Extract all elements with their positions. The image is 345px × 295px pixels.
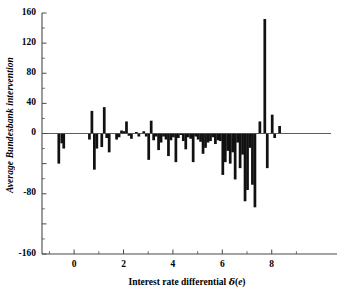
bar	[147, 134, 150, 160]
bar	[165, 134, 168, 140]
bars-group	[57, 19, 281, 207]
bar	[157, 134, 160, 151]
bar	[278, 126, 281, 134]
bar	[194, 134, 197, 137]
y-axis-tick-label: 80	[6, 67, 36, 77]
bar	[204, 134, 207, 148]
bar	[187, 134, 190, 138]
x-axis-tick-label: 8	[262, 259, 282, 269]
bar	[263, 19, 266, 133]
x-axis-title-text: Interest rate differential	[128, 277, 226, 287]
bar	[249, 134, 252, 148]
bar	[271, 115, 274, 134]
x-axis-paren-close: )	[242, 277, 245, 287]
bar	[105, 134, 108, 139]
bar	[125, 121, 128, 133]
y-axis-tick-label: -80	[6, 187, 36, 197]
bar	[197, 134, 200, 140]
bar	[226, 134, 229, 151]
bar	[162, 134, 165, 137]
bar	[170, 134, 173, 141]
bar	[130, 134, 133, 139]
bar	[160, 134, 163, 143]
bar	[145, 134, 148, 137]
bar	[221, 134, 224, 175]
x-axis-tick-label: 0	[64, 259, 84, 269]
bar	[244, 134, 247, 202]
y-axis-tick-label: 160	[6, 7, 36, 17]
bar-chart-plot	[0, 0, 345, 295]
bar	[182, 134, 185, 142]
bar	[177, 134, 180, 139]
bar	[88, 134, 91, 140]
bar	[241, 134, 244, 155]
bar	[217, 134, 220, 141]
bar	[150, 121, 153, 134]
y-axis-tick-label: 0	[6, 127, 36, 137]
bar	[192, 134, 195, 163]
bar	[219, 134, 222, 142]
bar	[254, 134, 257, 208]
x-axis-tick-label: 6	[212, 259, 232, 269]
bar	[152, 134, 155, 141]
bar	[100, 134, 103, 148]
bar	[167, 134, 170, 157]
bar	[239, 134, 242, 169]
bar	[207, 134, 210, 143]
bar	[57, 134, 60, 164]
bar	[103, 107, 106, 133]
bar	[229, 134, 232, 164]
bar	[155, 134, 158, 137]
bar	[231, 134, 234, 153]
bar	[93, 134, 96, 170]
bar	[273, 134, 276, 139]
bar	[189, 134, 192, 139]
bar	[120, 130, 123, 133]
bar	[266, 134, 269, 169]
bar	[137, 134, 140, 137]
bar	[95, 134, 98, 149]
y-axis-tick-label: 120	[6, 37, 36, 47]
bar	[62, 134, 65, 149]
bar	[184, 134, 187, 150]
bar	[259, 121, 262, 133]
bar	[172, 134, 175, 138]
bar	[108, 134, 111, 153]
bar	[251, 134, 254, 185]
bar	[236, 134, 239, 143]
y-axis-tick-label: -160	[6, 248, 36, 258]
bar	[175, 134, 178, 163]
bar	[118, 134, 121, 138]
x-axis-tick-label: 2	[114, 259, 134, 269]
bar	[202, 134, 205, 154]
bar	[214, 134, 217, 145]
chart-figure: Average Bundesbank intervention Interest…	[0, 0, 345, 295]
x-axis-tick-label: 4	[163, 259, 183, 269]
y-axis-tick-label: 40	[6, 97, 36, 107]
x-axis-title: Interest rate differential δ(e)	[42, 276, 332, 287]
bar	[209, 134, 212, 142]
bar	[91, 111, 94, 134]
bar	[224, 134, 227, 163]
bar	[115, 134, 118, 140]
bar	[199, 134, 202, 142]
bar	[246, 134, 249, 190]
bar	[212, 134, 215, 138]
bar	[234, 134, 237, 180]
